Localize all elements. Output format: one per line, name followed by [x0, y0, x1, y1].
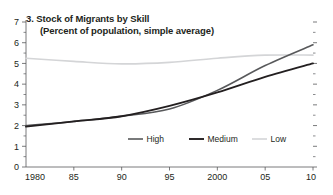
data-series-group [26, 45, 313, 127]
chart-legend: HighMediumLow [128, 134, 287, 144]
y-tick-label: 7 [14, 17, 19, 27]
y-tick-label: 5 [14, 59, 19, 69]
x-tick-label: 05 [260, 172, 270, 182]
y-tick-label: 4 [14, 79, 19, 89]
y-tick-label: 0 [14, 162, 19, 172]
x-tick-label: 90 [117, 172, 127, 182]
legend-label-high: High [147, 134, 165, 144]
chart-container: 3. Stock of Migrants by Skill (Percent o… [0, 0, 333, 195]
x-axis: 198085909520000510 [25, 167, 316, 182]
x-tick-label: 2000 [207, 172, 227, 182]
series-line-medium [26, 63, 313, 126]
x-tick-label: 10 [306, 172, 316, 182]
y-axis: 01234567 [14, 17, 317, 172]
series-line-high [26, 45, 313, 126]
chart-plot-area: 01234567 198085909520000510 HighMediumLo… [0, 0, 333, 195]
y-tick-label: 1 [14, 142, 19, 152]
y-tick-label: 3 [14, 100, 19, 110]
legend-label-low: Low [271, 134, 287, 144]
x-tick-label: 85 [69, 172, 79, 182]
y-tick-label: 2 [14, 121, 19, 131]
legend-label-medium: Medium [208, 134, 238, 144]
y-tick-label: 6 [14, 38, 19, 48]
x-tick-label: 95 [164, 172, 174, 182]
x-tick-label: 1980 [25, 172, 45, 182]
